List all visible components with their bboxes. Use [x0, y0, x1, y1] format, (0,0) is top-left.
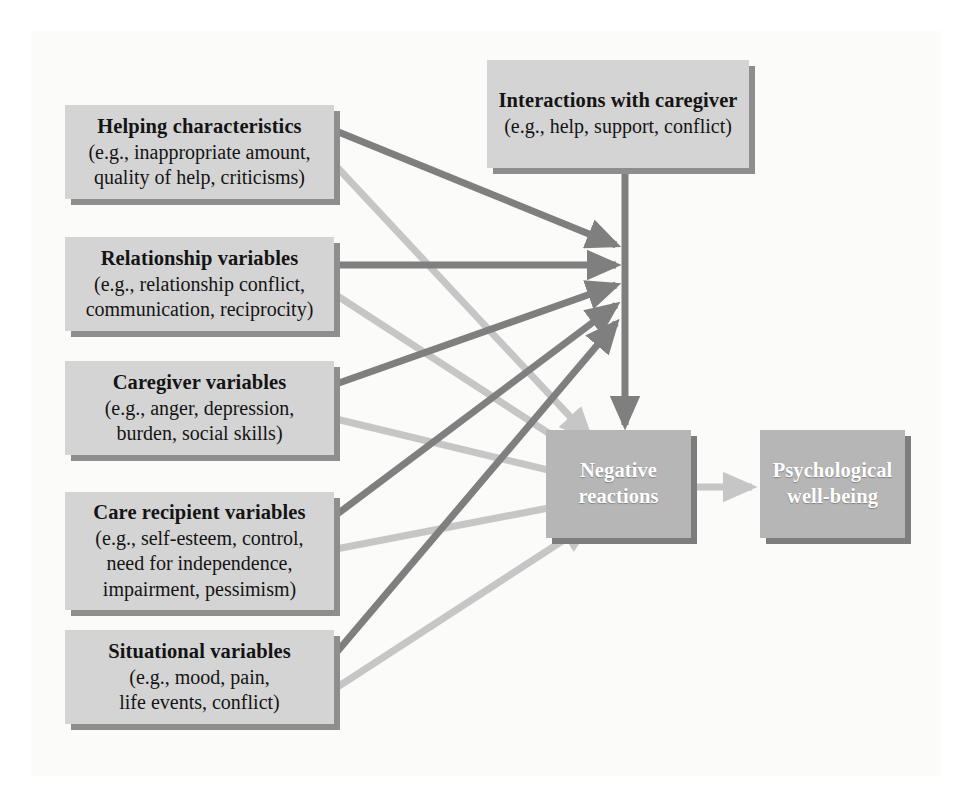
box-line: impairment, pessimism) — [103, 577, 296, 602]
box-line: need for independence, — [106, 551, 292, 576]
box-line: (e.g., self-esteem, control, — [95, 526, 303, 551]
box-line: burden, social skills) — [116, 421, 282, 446]
box-shadow-right — [905, 436, 911, 544]
box-line: (e.g., help, support, conflict) — [504, 114, 732, 139]
box-shadow-right — [334, 367, 340, 461]
box-shadow-right — [749, 66, 755, 174]
box-shadow-bottom — [71, 724, 340, 730]
box-caregiver-variables[interactable]: Caregiver variables (e.g., anger, depres… — [65, 361, 334, 455]
box-shadow-right — [334, 498, 340, 616]
box-care-recipient-variables[interactable]: Care recipient variables (e.g., self-est… — [65, 492, 334, 610]
box-shadow-bottom — [71, 199, 340, 205]
box-negative-reactions[interactable]: Negative reactions — [546, 430, 691, 538]
box-psychological-well-being[interactable]: Psychological well-being — [760, 430, 905, 538]
box-title: Helping characteristics — [97, 114, 301, 140]
box-shadow-bottom — [552, 538, 697, 544]
box-title: Negative — [580, 458, 657, 484]
box-line: (e.g., relationship conflict, — [94, 272, 305, 297]
diagram-canvas: Interactions with caregiver (e.g., help,… — [0, 0, 974, 812]
box-interactions-with-caregiver[interactable]: Interactions with caregiver (e.g., help,… — [487, 60, 749, 168]
box-shadow-right — [334, 243, 340, 337]
box-line: life events, conflict) — [119, 690, 280, 715]
box-line: reactions — [578, 484, 658, 510]
box-line: quality of help, criticisms) — [94, 165, 305, 190]
box-relationship-variables[interactable]: Relationship variables (e.g., relationsh… — [65, 237, 334, 331]
box-shadow-right — [691, 436, 697, 544]
box-line: (e.g., inappropriate amount, — [88, 140, 310, 165]
box-title: Situational variables — [108, 639, 291, 665]
box-line: (e.g., mood, pain, — [129, 665, 270, 690]
box-shadow-right — [334, 111, 340, 205]
box-shadow-bottom — [71, 455, 340, 461]
box-title: Caregiver variables — [113, 370, 287, 396]
box-helping-characteristics[interactable]: Helping characteristics (e.g., inappropr… — [65, 105, 334, 199]
box-line: well-being — [787, 484, 878, 510]
box-title: Psychological — [773, 458, 893, 484]
box-title: Care recipient variables — [93, 500, 305, 526]
box-title: Interactions with caregiver — [498, 88, 737, 114]
box-line: communication, reciprocity) — [86, 297, 314, 322]
box-shadow-right — [334, 636, 340, 730]
box-shadow-bottom — [766, 538, 911, 544]
box-title: Relationship variables — [101, 246, 299, 272]
box-line: (e.g., anger, depression, — [105, 396, 295, 421]
box-shadow-bottom — [493, 168, 755, 174]
box-shadow-bottom — [71, 610, 340, 616]
box-situational-variables[interactable]: Situational variables (e.g., mood, pain,… — [65, 630, 334, 724]
box-shadow-bottom — [71, 331, 340, 337]
